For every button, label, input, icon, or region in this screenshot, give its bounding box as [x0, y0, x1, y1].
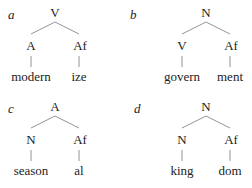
- tree-label: d: [134, 102, 141, 116]
- tree-label: c: [8, 102, 14, 116]
- right-word: al: [74, 164, 83, 178]
- right-node: Af: [73, 39, 87, 53]
- left-node: N: [177, 133, 186, 147]
- tree-label: a: [8, 8, 15, 22]
- right-word: ize: [71, 70, 86, 84]
- tree-label: b: [130, 8, 137, 22]
- tree-lines: [0, 0, 252, 188]
- right-word: dom: [218, 164, 241, 178]
- root-node: V: [50, 6, 59, 20]
- left-word: season: [14, 164, 49, 178]
- root-node: A: [50, 100, 59, 114]
- right-node: Af: [224, 133, 238, 147]
- right-word: ment: [217, 70, 243, 84]
- right-node: Af: [73, 133, 87, 147]
- left-word: king: [170, 164, 193, 178]
- root-node: N: [201, 6, 210, 20]
- right-node: Af: [224, 39, 238, 53]
- left-node: V: [177, 39, 186, 53]
- root-node: N: [201, 100, 210, 114]
- left-word: modern: [11, 70, 51, 84]
- left-node: A: [26, 39, 35, 53]
- left-node: N: [26, 133, 35, 147]
- left-word: govern: [164, 70, 200, 84]
